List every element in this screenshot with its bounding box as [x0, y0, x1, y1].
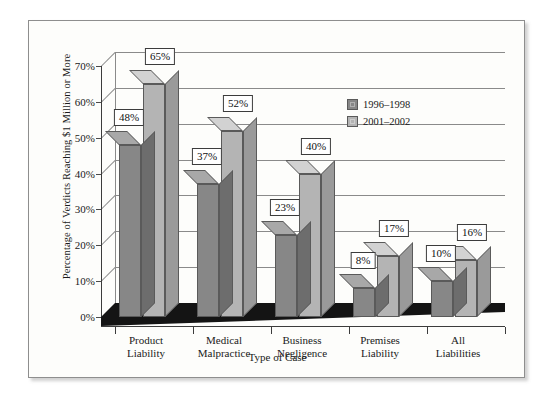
y-tick-label: 10% — [49, 275, 95, 287]
bar-1-cat-4 — [353, 274, 389, 317]
data-label-s2-c2: 52% — [223, 95, 253, 112]
bar-side-face — [297, 221, 311, 317]
bar-1-cat-1 — [119, 131, 155, 317]
bar-side-face — [141, 131, 155, 317]
legend-swatch-series2 — [347, 116, 358, 127]
chart-figure-frame: Percentage of Verdicts Reaching $1 Milli… — [28, 20, 525, 378]
gridline-riser — [101, 267, 116, 282]
gridline-riser — [101, 160, 116, 175]
legend-item: 1996–1998 — [347, 97, 410, 111]
bar-top-face — [129, 70, 165, 84]
category-label-line: Product — [127, 334, 165, 347]
chart-plot-area: Percentage of Verdicts Reaching $1 Milli… — [29, 21, 526, 379]
data-label-s1-c2: 37% — [192, 148, 222, 165]
y-tick-label: 20% — [49, 239, 95, 251]
bar-side-face — [165, 70, 179, 317]
legend-item: 2001–2002 — [347, 114, 410, 128]
bar-top-face — [105, 131, 141, 145]
bar-side-face — [321, 160, 335, 317]
bar-side-face — [399, 242, 413, 317]
legend-swatch-series1 — [347, 99, 358, 110]
bar-side-face — [243, 117, 257, 317]
x-axis-title: Type of Case — [29, 351, 526, 363]
y-axis-line — [101, 66, 102, 317]
legend-label-series2: 2001–2002 — [363, 116, 410, 127]
data-label-s1-c5: 10% — [426, 245, 456, 262]
y-tick-label: 50% — [49, 132, 95, 144]
gridline-riser — [101, 231, 116, 246]
legend-label-series1: 1996–1998 — [363, 99, 410, 110]
data-label-s2-c5: 16% — [457, 224, 487, 241]
category-label-line: Medical — [198, 334, 251, 347]
bar-1-cat-3 — [275, 221, 311, 317]
y-axis-back-line — [115, 52, 116, 303]
bar-front-face — [197, 184, 219, 317]
category-tick — [193, 327, 194, 334]
bar-1-cat-5 — [431, 267, 467, 317]
data-label-s2-c1: 65% — [145, 48, 175, 65]
y-tick-label: 60% — [49, 96, 95, 108]
bar-side-face — [375, 274, 389, 317]
data-label-s1-c1: 48% — [114, 109, 144, 126]
bar-front-face — [431, 281, 453, 317]
bar-top-face — [261, 221, 297, 235]
y-tick-label: 30% — [49, 203, 95, 215]
category-tick — [427, 327, 428, 334]
category-tick — [271, 327, 272, 334]
bar-1-cat-2 — [197, 170, 233, 317]
gridline-riser — [101, 196, 116, 211]
y-tick-label: 40% — [49, 168, 95, 180]
category-tick — [115, 327, 116, 334]
bar-front-face — [275, 235, 297, 317]
y-tick-label: 0% — [49, 311, 95, 323]
data-label-s1-c4: 8% — [351, 252, 376, 269]
data-label-s2-c4: 17% — [379, 220, 409, 237]
gridline-riser — [101, 88, 116, 103]
chart-legend: 1996–1998 2001–2002 — [347, 97, 410, 131]
category-tick — [349, 327, 350, 334]
category-tick — [505, 327, 506, 334]
bar-side-face — [477, 246, 491, 317]
y-tick-mark — [96, 317, 101, 318]
bar-side-face — [453, 267, 467, 317]
data-label-s2-c3: 40% — [301, 138, 331, 155]
data-label-s1-c3: 23% — [270, 199, 300, 216]
bar-front-face — [353, 288, 375, 317]
bar-side-face — [219, 170, 233, 317]
bar-top-face — [339, 274, 375, 288]
gridline-riser — [101, 52, 116, 67]
category-label-line: All — [436, 334, 481, 347]
y-tick-label: 70% — [49, 60, 95, 72]
x-axis-line — [101, 326, 505, 327]
bar-top-face — [183, 170, 219, 184]
bar-top-face — [417, 267, 453, 281]
category-label-line: Premises — [360, 334, 400, 347]
bar-top-face — [285, 160, 321, 174]
category-label-line: Business — [277, 334, 327, 347]
bar-front-face — [119, 145, 141, 317]
